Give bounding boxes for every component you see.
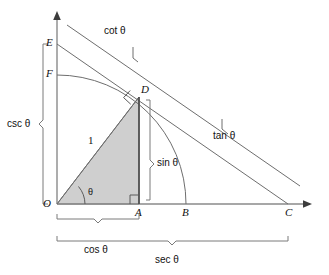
- x-axis-arrowhead: [303, 200, 312, 208]
- csc-label: csc θ: [7, 119, 30, 129]
- sin-brace: [146, 100, 154, 200]
- sin-label: sin θ: [157, 158, 178, 168]
- sec-label: sec θ: [155, 255, 179, 265]
- point-label-C: C: [285, 207, 292, 218]
- point-label-A: A: [135, 207, 142, 218]
- point-label-E: E: [46, 37, 53, 48]
- point-label-O: O: [43, 198, 51, 209]
- tan-label: tan θ: [213, 131, 235, 141]
- cos-brace: [57, 214, 139, 223]
- y-axis-arrowhead: [53, 11, 61, 20]
- point-label-D: D: [141, 84, 149, 95]
- hypotenuse-length-label: 1: [88, 135, 94, 146]
- cot-label: cot θ: [104, 26, 126, 36]
- cot-leader: [133, 47, 138, 62]
- theta-angle-label: θ: [88, 188, 93, 197]
- cos-label: cos θ: [84, 245, 108, 255]
- trig-diagram-canvas: O A B C D E F 1 θ sin θ cos θ tan θ cot …: [0, 0, 329, 275]
- point-label-B: B: [182, 207, 189, 218]
- point-label-F: F: [46, 68, 53, 79]
